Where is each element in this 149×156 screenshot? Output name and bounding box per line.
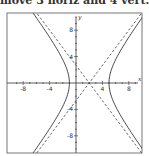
y-axis-label: y (77, 13, 82, 21)
x-tick-label: 4 (100, 85, 104, 92)
x-tick-label: -4 (47, 85, 53, 92)
hyperbola-plot: -8-44884-4-8xy (0, 0, 149, 156)
x-tick-label: 8 (127, 85, 131, 92)
y-tick-label: 8 (69, 26, 73, 33)
y-tick-label: -4 (67, 105, 73, 112)
x-tick-label: -8 (20, 85, 26, 92)
y-tick-label: -8 (67, 132, 73, 139)
y-tick-label: 4 (69, 53, 73, 60)
